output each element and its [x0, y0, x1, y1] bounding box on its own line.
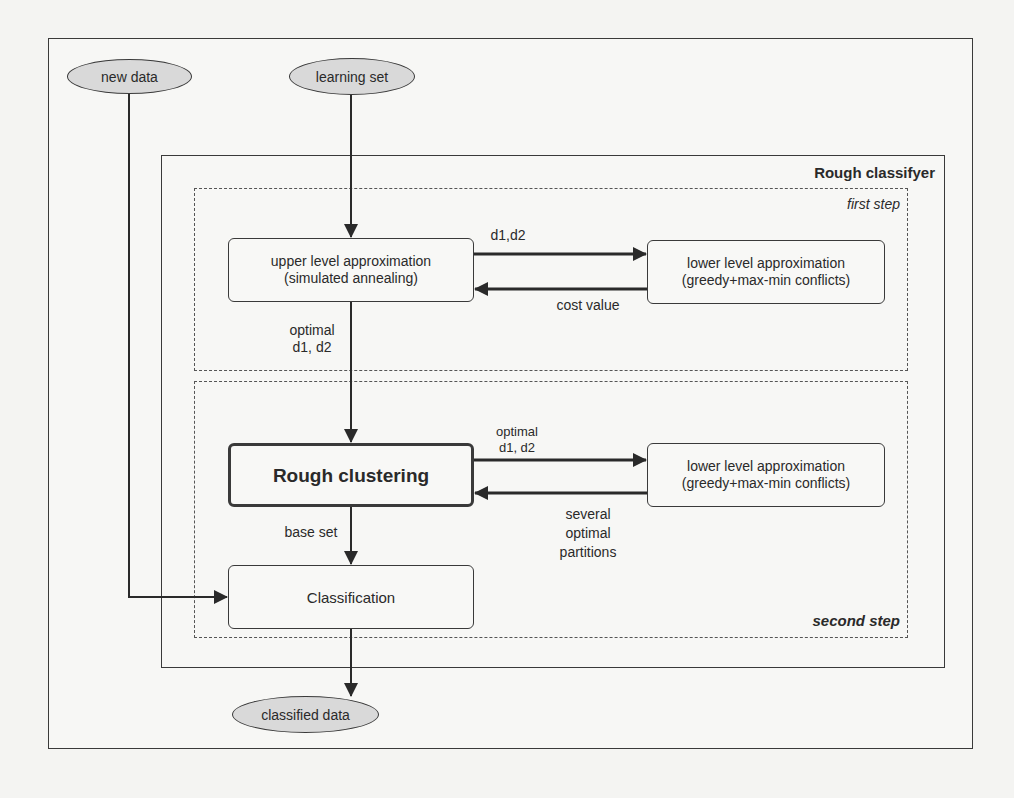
- rough-clustering-label: Rough clustering: [273, 467, 429, 484]
- optimal-d1-d2-forward-label: optimal d1, d2: [482, 424, 552, 456]
- d1-d2-text: d1, d2: [282, 339, 342, 356]
- lower-level-approximation-box-2: lower level approximation (greedy+max-mi…: [647, 443, 885, 507]
- lower-level-approximation-box-1: lower level approximation (greedy+max-mi…: [647, 240, 885, 304]
- connector-arrows: [0, 0, 1014, 798]
- classification-box: Classification: [228, 565, 474, 629]
- rough-classifyer-title: Rough classifyer: [780, 164, 935, 181]
- optimal-text: optimal: [282, 322, 342, 339]
- learning-set-node: learning set: [289, 58, 415, 95]
- upper-level-approximation-box: upper level approximation (simulated ann…: [228, 238, 474, 302]
- optimal-text-3: optimal: [548, 524, 628, 543]
- d1-d2-label: d1,d2: [478, 227, 538, 244]
- lower-box1-line1: lower level approximation: [687, 255, 845, 272]
- partitions-text: partitions: [548, 543, 628, 562]
- lower-box2-line2: (greedy+max-min conflicts): [682, 475, 850, 492]
- lower-box2-line1: lower level approximation: [687, 458, 845, 475]
- first-step-label: first step: [780, 196, 900, 212]
- optimal-d1-d2-down-label: optimal d1, d2: [282, 322, 342, 356]
- optimal-text-2: optimal: [482, 424, 552, 440]
- classified-data-node: classified data: [232, 696, 379, 733]
- classified-data-label: classified data: [261, 707, 350, 723]
- rough-clustering-box: Rough clustering: [228, 443, 474, 507]
- new-data-label: new data: [101, 69, 158, 85]
- new-data-node: new data: [67, 59, 192, 94]
- lower-box1-line2: (greedy+max-min conflicts): [682, 272, 850, 289]
- several-optimal-partitions-label: several optimal partitions: [548, 505, 628, 562]
- learning-set-label: learning set: [316, 69, 388, 85]
- several-text: several: [548, 505, 628, 524]
- upper-box-line2: (simulated annealing): [284, 270, 418, 287]
- d1-d2-text-2: d1, d2: [482, 440, 552, 456]
- upper-box-line1: upper level approximation: [271, 253, 431, 270]
- second-step-label: second step: [760, 612, 900, 629]
- classification-label: Classification: [307, 589, 395, 606]
- base-set-label: base set: [276, 524, 346, 541]
- cost-value-label: cost value: [548, 297, 628, 314]
